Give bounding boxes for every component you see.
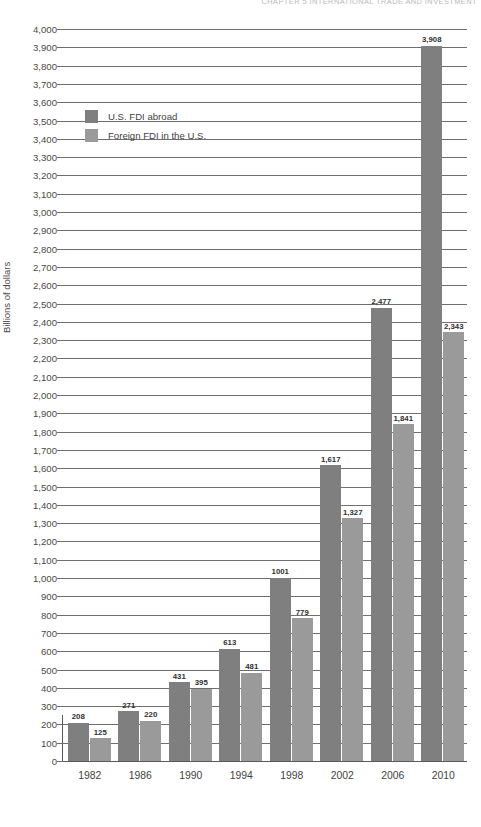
y-axis-tick-label: 1,000 (11, 573, 57, 584)
y-axis-tick-label: 1,900 (11, 408, 57, 419)
bar-value-label: 613 (223, 638, 236, 647)
y-axis-tickmark (57, 175, 63, 176)
y-axis-tickmark (57, 413, 63, 414)
y-axis-tick-label: 1,200 (11, 536, 57, 547)
bar: 2,477 (371, 308, 392, 761)
legend-item-foreign-fdi-in-us: Foreign FDI in the U.S. (85, 126, 206, 145)
bar-group: 3,9082,3432010 (421, 29, 464, 761)
y-axis-tick-label: 1,500 (11, 481, 57, 492)
bar-value-label: 2,343 (444, 322, 464, 331)
legend-label-us-fdi-abroad: U.S. FDI abroad (108, 111, 177, 122)
y-axis-tickmark (57, 395, 63, 396)
y-axis-tick-label: 2,000 (11, 390, 57, 401)
y-axis-tickmark (57, 487, 63, 488)
legend-label-foreign-fdi-in-us: Foreign FDI in the U.S. (108, 130, 206, 141)
y-axis-tickmark (57, 212, 63, 213)
y-axis-tickmark (57, 358, 63, 359)
x-axis-label: 2006 (381, 770, 404, 781)
bar: 271 (118, 711, 139, 761)
bar-value-label: 220 (144, 710, 157, 719)
y-axis-tick-label: 700 (11, 627, 57, 638)
y-axis-tickmark (57, 84, 63, 85)
y-axis-tickmark (57, 706, 63, 707)
legend-swatch-us-fdi-abroad (85, 110, 98, 123)
bar: 2,343 (443, 332, 464, 761)
bar-value-label: 481 (245, 662, 258, 671)
x-axis-label: 1990 (179, 770, 202, 781)
y-axis-line (62, 715, 63, 761)
y-axis-tick-label: 2,800 (11, 243, 57, 254)
y-axis-tick-label: 1,300 (11, 518, 57, 529)
bar-value-label: 1,617 (321, 455, 341, 464)
bar: 125 (90, 738, 111, 761)
y-axis-tickmark (57, 66, 63, 67)
y-axis-tickmark (57, 157, 63, 158)
bar: 431 (169, 682, 190, 761)
y-axis-tick-label: 3,700 (11, 78, 57, 89)
y-axis-tick-label: 2,300 (11, 335, 57, 346)
y-axis-tickmark (57, 322, 63, 323)
bar-value-label: 1,327 (343, 508, 363, 517)
y-axis-tickmark (57, 505, 63, 506)
y-axis-tick-label: 0 (11, 756, 57, 767)
y-axis-tick-label: 1,600 (11, 463, 57, 474)
y-axis-tickmark (57, 432, 63, 433)
y-axis-tick-label: 400 (11, 682, 57, 693)
y-axis-tick-label: 600 (11, 646, 57, 657)
bar: 481 (241, 673, 262, 761)
bar-value-label: 125 (94, 728, 107, 737)
y-axis-tickmark (57, 121, 63, 122)
y-axis-tickmark (57, 450, 63, 451)
bar: 395 (191, 689, 212, 761)
bar: 208 (68, 723, 89, 761)
x-axis-label: 1994 (230, 770, 253, 781)
y-axis-tickmark (57, 304, 63, 305)
x-axis-label: 1998 (280, 770, 303, 781)
fdi-bar-chart: Billions of dollars 4,0003,9003,8003,700… (0, 0, 481, 827)
y-axis-tick-label: 4,000 (11, 24, 57, 35)
y-axis-tickmark (57, 670, 63, 671)
y-axis-tick-label: 3,200 (11, 170, 57, 181)
y-axis-tick-label: 1,400 (11, 499, 57, 510)
y-axis-tick-label: 3,100 (11, 188, 57, 199)
y-axis-tick-label: 900 (11, 591, 57, 602)
y-axis-tick-label: 3,400 (11, 133, 57, 144)
y-axis-tick-label: 3,600 (11, 97, 57, 108)
y-axis-tickmark (57, 249, 63, 250)
y-axis-tick-label: 2,700 (11, 261, 57, 272)
y-axis-tickmark (57, 267, 63, 268)
y-axis-tick-label: 800 (11, 609, 57, 620)
bar: 1,841 (393, 424, 414, 761)
y-axis-tickmark (57, 541, 63, 542)
bar-value-label: 779 (296, 608, 309, 617)
y-axis-tickmark (57, 633, 63, 634)
bar: 613 (219, 649, 240, 761)
y-axis-tickmark (57, 194, 63, 195)
gridline (63, 761, 467, 762)
bar-value-label: 1001 (272, 567, 289, 576)
bar-value-label: 2,477 (371, 297, 391, 306)
y-axis-tick-label: 2,200 (11, 353, 57, 364)
y-axis-tickmark (57, 102, 63, 103)
bar-value-label: 1,841 (393, 414, 413, 423)
bar-value-label: 3,908 (422, 35, 442, 44)
y-axis-tick-label: 1,800 (11, 426, 57, 437)
bar-group: 2,4771,8412006 (371, 29, 414, 761)
y-axis-tickmark (57, 578, 63, 579)
y-axis-tickmark (57, 560, 63, 561)
y-axis-tickmark (57, 651, 63, 652)
y-axis-tickmark (57, 377, 63, 378)
y-axis-tick-label: 2,400 (11, 316, 57, 327)
y-axis-tick-label: 3,900 (11, 42, 57, 53)
bar: 779 (292, 618, 313, 761)
bar-value-label: 208 (72, 712, 85, 721)
y-axis-tickmark (57, 523, 63, 524)
y-axis-tick-label: 3,300 (11, 152, 57, 163)
bar-group: 6134811994 (219, 29, 262, 761)
y-axis-tick-label: 3,000 (11, 207, 57, 218)
y-axis-tick-label: 500 (11, 664, 57, 675)
y-axis-tickmark (57, 743, 63, 744)
y-axis-tick-label: 3,500 (11, 115, 57, 126)
y-axis-tick-label: 300 (11, 701, 57, 712)
x-axis-label: 1982 (78, 770, 101, 781)
